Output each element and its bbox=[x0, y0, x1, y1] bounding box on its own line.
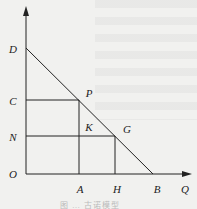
y-axis-arrow-icon bbox=[23, 6, 29, 16]
demand-line bbox=[26, 48, 153, 174]
label-o: O bbox=[9, 169, 17, 180]
label-q: Q bbox=[181, 184, 189, 195]
label-d: D bbox=[9, 44, 17, 55]
label-h: H bbox=[113, 184, 121, 195]
label-g: G bbox=[123, 124, 131, 135]
diagram-svg bbox=[0, 0, 197, 209]
label-p: P bbox=[86, 88, 93, 99]
label-a: A bbox=[77, 184, 84, 195]
figure-caption: 图 … 古诺模型 bbox=[60, 199, 180, 209]
label-b: B bbox=[154, 184, 161, 195]
label-n: N bbox=[9, 132, 16, 143]
label-k: K bbox=[85, 122, 92, 133]
diagram-canvas: D C N O P K G A H B Q 图 … 古诺模型 bbox=[0, 0, 197, 209]
label-c: C bbox=[9, 96, 16, 107]
x-axis-arrow-icon bbox=[182, 171, 192, 177]
